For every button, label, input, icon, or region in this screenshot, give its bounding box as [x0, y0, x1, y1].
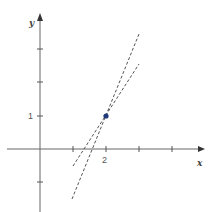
- intersection-point: [103, 113, 108, 118]
- y-tick-label-1: 1: [28, 111, 33, 121]
- y-axis-label: y: [28, 18, 35, 28]
- x-axis-label: x: [196, 158, 203, 168]
- x-axis-arrow-icon: [198, 146, 205, 152]
- x-tick-label-2: 2: [102, 155, 107, 165]
- chart-canvas: y x 2 1: [0, 0, 209, 212]
- y-axis-arrow-icon: [37, 13, 43, 21]
